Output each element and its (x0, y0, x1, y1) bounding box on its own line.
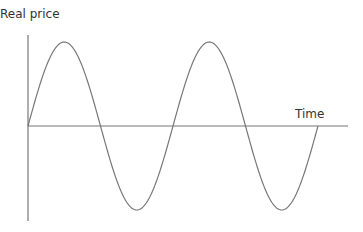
y-axis-label: Real price (0, 7, 60, 21)
x-axis-label: Time (294, 107, 324, 121)
real-price-cycle-chart: Real price Time (0, 0, 363, 232)
